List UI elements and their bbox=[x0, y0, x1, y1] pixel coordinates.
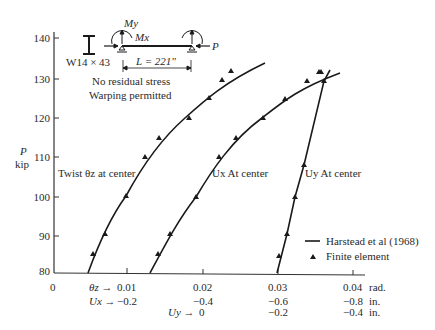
x-tick-theta-002: 0.02 bbox=[193, 281, 212, 293]
x-tick-theta-0: 0 bbox=[50, 281, 56, 293]
x-theta-prefix: θz → bbox=[89, 281, 112, 293]
y-tick-120: 120 bbox=[28, 112, 50, 124]
legend-label-line: Harstead et al (1968) bbox=[326, 235, 419, 247]
y-axis-label-unit: kip bbox=[15, 158, 29, 170]
curve-label-uy: Uy At center bbox=[305, 167, 361, 179]
legend-triangle-icon bbox=[310, 254, 316, 259]
x-unit-rad: rad. bbox=[369, 281, 386, 293]
x-tick-theta-004: 0.04 bbox=[343, 281, 362, 293]
section-label: W14 × 43 bbox=[66, 56, 110, 68]
x-ux-prefix: Ux → bbox=[89, 295, 116, 307]
markers-ux bbox=[155, 69, 324, 256]
y-tick-140: 140 bbox=[28, 32, 50, 44]
y-tick-90: 90 bbox=[28, 230, 50, 242]
legend-label-marker: Finite element bbox=[326, 250, 389, 262]
y-ticks bbox=[54, 38, 59, 236]
note-warping: Warping permitted bbox=[89, 89, 172, 101]
y-tick-130: 130 bbox=[28, 73, 50, 85]
x-tick-uy-04: −0.4 bbox=[343, 306, 363, 318]
x-tick-theta-001: 0.01 bbox=[117, 281, 136, 293]
i-beam-icon bbox=[83, 36, 95, 54]
curve-label-ux: Ux At center bbox=[212, 167, 268, 179]
y-tick-80: 80 bbox=[28, 265, 50, 277]
x-tick-uy-02: −0.2 bbox=[268, 306, 288, 318]
length-label: L = 221" bbox=[136, 55, 176, 67]
x-tick-uy-0: 0 bbox=[199, 306, 205, 318]
x-axis bbox=[54, 273, 365, 275]
moment-Mx-label: Mx bbox=[135, 31, 149, 43]
note-residual-stress: No residual stress bbox=[92, 75, 170, 87]
x-unit-in-uy: in. bbox=[369, 306, 380, 318]
y-axis-label-P: P bbox=[20, 145, 27, 157]
y-tick-110: 110 bbox=[28, 151, 50, 163]
x-uy-prefix: Uy → bbox=[168, 306, 195, 318]
x-tick-ux-02: −0.2 bbox=[117, 295, 137, 307]
load-P-label: P bbox=[212, 40, 219, 52]
curve-label-twist: Twist θz at center bbox=[58, 167, 136, 179]
x-tick-theta-003: 0.03 bbox=[268, 281, 287, 293]
moment-My-label: My bbox=[124, 17, 138, 29]
y-tick-100: 100 bbox=[28, 191, 50, 203]
